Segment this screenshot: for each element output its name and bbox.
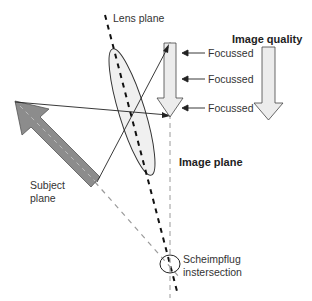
subject-plane-arrow: [15, 101, 100, 187]
scheimpflug-label-2: instersection: [183, 266, 242, 278]
lens-plane-label: Lens plane: [113, 12, 164, 24]
subject-plane-extension: [95, 182, 180, 278]
focussed-label-1: Focussed: [208, 47, 254, 59]
subject-plane-label-1: Subject: [30, 179, 65, 191]
image-plane-label: Image plane: [179, 156, 243, 168]
image-quality-arrow: [254, 47, 283, 120]
scheimpflug-diagram: [0, 0, 312, 301]
subject-plane-label-2: plane: [30, 192, 56, 204]
scheimpflug-label-1: Scheimpflug: [183, 253, 241, 265]
image-quality-label: Image quality: [232, 33, 302, 45]
focussed-pointers: [182, 50, 205, 111]
image-arrow: [157, 43, 183, 117]
focussed-label-3: Focussed: [208, 102, 254, 114]
focussed-label-2: Focussed: [208, 73, 254, 85]
